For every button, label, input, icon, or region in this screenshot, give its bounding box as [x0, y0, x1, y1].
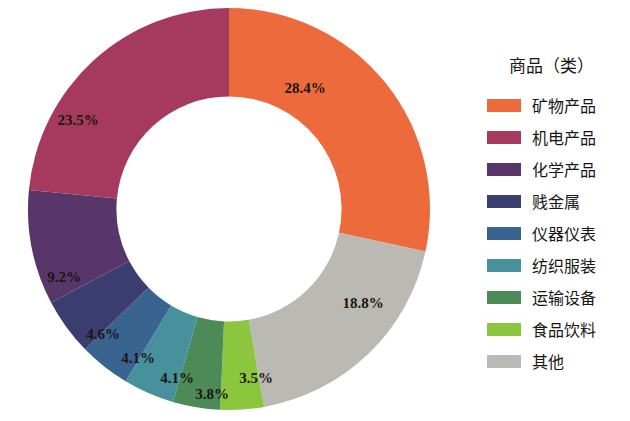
legend-color-swatch [487, 195, 521, 208]
legend-item-label: 仪器仪表 [532, 221, 596, 245]
legend-item-label: 运输设备 [532, 285, 596, 309]
legend-item[interactable]: 其他 [487, 345, 630, 377]
legend-item[interactable]: 运输设备 [487, 281, 630, 313]
legend-item[interactable]: 纺织服装 [487, 249, 630, 281]
legend-item-label: 化学产品 [532, 157, 596, 181]
donut-slice[interactable] [249, 233, 426, 407]
slice-percentage-label: 4.1% [121, 350, 155, 367]
legend-color-swatch [487, 227, 521, 240]
slice-percentage-label: 28.4% [284, 80, 325, 97]
slice-percentage-label: 4.1% [160, 370, 194, 387]
legend-item[interactable]: 化学产品 [487, 153, 630, 185]
slice-percentage-label: 3.5% [239, 370, 273, 387]
legend-color-swatch [487, 163, 521, 176]
legend-item[interactable]: 食品饮料 [487, 313, 630, 345]
donut-slice[interactable] [229, 8, 430, 252]
legend-color-swatch [487, 99, 521, 112]
donut-slice[interactable] [29, 8, 229, 198]
legend-item-label: 纺织服装 [532, 253, 596, 277]
legend-item[interactable]: 贱金属 [487, 185, 630, 217]
legend-item-label: 机电产品 [532, 125, 596, 149]
legend-item[interactable]: 机电产品 [487, 121, 630, 153]
legend-item-label: 其他 [532, 349, 564, 373]
legend-item-label: 矿物产品 [532, 93, 596, 117]
donut-chart-figure: 28.4%18.8%3.5%3.8%4.1%4.1%4.6%9.2%23.5% … [0, 0, 630, 421]
slice-percentage-label: 9.2% [47, 269, 81, 286]
legend-color-swatch [487, 291, 521, 304]
legend-item-label: 贱金属 [532, 189, 580, 213]
chart-legend: 商品（类） 矿物产品机电产品化学产品贱金属仪器仪表纺织服装运输设备食品饮料其他 [487, 52, 630, 377]
legend-title: 商品（类） [509, 52, 630, 77]
legend-item[interactable]: 仪器仪表 [487, 217, 630, 249]
legend-color-swatch [487, 259, 521, 272]
legend-item-label: 食品饮料 [532, 317, 596, 341]
slice-percentage-label: 23.5% [57, 112, 98, 129]
legend-color-swatch [487, 323, 521, 336]
slice-percentage-label: 4.6% [86, 326, 120, 343]
slice-percentage-label: 18.8% [342, 295, 383, 312]
legend-color-swatch [487, 131, 521, 144]
legend-item[interactable]: 矿物产品 [487, 89, 630, 121]
slice-percentage-label: 3.8% [195, 386, 229, 403]
donut-chart-plot: 28.4%18.8%3.5%3.8%4.1%4.1%4.6%9.2%23.5% [0, 0, 460, 421]
legend-item-list: 矿物产品机电产品化学产品贱金属仪器仪表纺织服装运输设备食品饮料其他 [487, 89, 630, 377]
donut-chart-svg [0, 0, 460, 421]
legend-color-swatch [487, 355, 521, 368]
